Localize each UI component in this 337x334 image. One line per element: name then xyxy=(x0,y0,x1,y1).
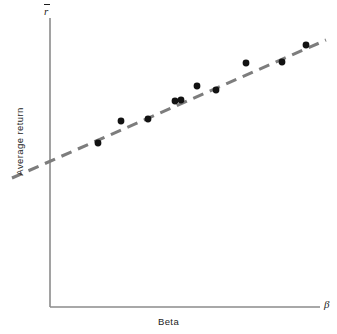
y-axis-symbol-base: r xyxy=(44,5,49,17)
data-point xyxy=(118,118,125,125)
data-point xyxy=(145,116,152,123)
x-axis-symbol: β xyxy=(324,298,330,310)
data-point xyxy=(178,97,185,104)
y-axis-symbol: r xyxy=(44,5,49,17)
data-point xyxy=(213,87,220,94)
data-point xyxy=(279,59,286,66)
data-point xyxy=(172,98,179,105)
data-point xyxy=(95,140,102,147)
x-axis-label: Beta xyxy=(0,316,337,327)
data-point xyxy=(243,60,250,67)
figure-scatter-plot: r Average return Beta β xyxy=(0,0,337,334)
plot-canvas xyxy=(0,0,337,334)
y-axis-label: Average return xyxy=(14,99,25,185)
data-point xyxy=(303,42,310,49)
data-point xyxy=(194,83,201,90)
